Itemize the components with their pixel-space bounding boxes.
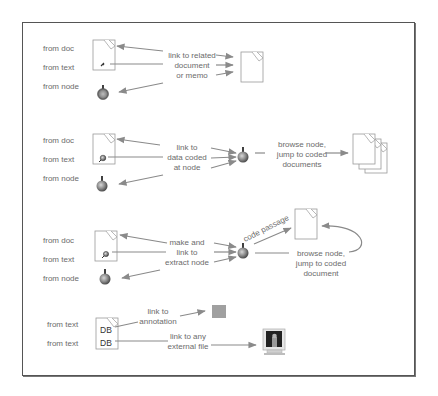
followup-label: jump to coded — [295, 259, 346, 268]
file-label: external file — [168, 342, 209, 351]
arrow — [211, 161, 236, 168]
source-label: from doc — [43, 136, 74, 145]
source-label: from text — [47, 339, 79, 348]
section-2: from doc from text from node link to dat… — [43, 134, 387, 192]
computer-monitor-icon — [263, 329, 285, 355]
annotation-label: annotation — [139, 317, 176, 326]
source-document-icon — [93, 40, 115, 70]
target-node-icon — [238, 147, 249, 163]
file-label: link to any — [170, 332, 206, 341]
source-label: from node — [43, 274, 80, 283]
arrow — [211, 148, 236, 153]
annotation-icon — [212, 305, 226, 318]
action-label: extract node — [165, 258, 210, 267]
source-label: from node — [43, 82, 80, 91]
source-label: from doc — [43, 44, 74, 53]
action-label: document — [174, 61, 210, 70]
action-label: link to related — [168, 51, 216, 60]
section-3: from doc from text from node make and li… — [43, 209, 362, 285]
source-label: from text — [47, 320, 79, 329]
target-document-icon — [241, 52, 263, 82]
source-label: from text — [43, 255, 75, 264]
action-label: at node — [174, 163, 201, 172]
arrow — [216, 55, 233, 57]
arrow — [117, 46, 163, 51]
source-label: from doc — [43, 236, 74, 245]
coded-documents-icon — [353, 134, 387, 173]
arrow — [122, 270, 160, 278]
db-marker: DB — [100, 325, 112, 335]
section-1: from doc from text from node link to rel… — [43, 40, 263, 100]
source-node-icon — [97, 176, 108, 192]
arrow — [211, 157, 236, 158]
followup-label: document — [303, 269, 339, 278]
arrow — [119, 83, 163, 92]
action-label: or memo — [176, 71, 208, 80]
arrow — [214, 257, 236, 262]
linking-diagram: from doc from text from node link to rel… — [0, 0, 438, 396]
arrow — [214, 243, 236, 247]
arrow — [119, 175, 163, 184]
connector — [115, 322, 138, 327]
arrow — [120, 235, 167, 243]
source-label: from node — [43, 174, 80, 183]
annotation-label: link to — [148, 307, 169, 316]
target-node-icon — [238, 243, 249, 259]
action-label: link to — [177, 143, 198, 152]
action-label: data coded — [167, 153, 207, 162]
arrow — [180, 311, 205, 316]
coded-document-icon — [295, 209, 317, 239]
action-label: link to — [177, 248, 198, 257]
source-label: from text — [43, 155, 75, 164]
source-node-icon — [98, 85, 109, 100]
action-label: make and — [169, 238, 204, 247]
followup-label: documents — [282, 160, 321, 169]
arrow — [216, 72, 233, 75]
arrow — [117, 139, 160, 145]
followup-label: browse node, — [297, 249, 345, 258]
source-label: from text — [43, 63, 75, 72]
source-node-icon — [100, 269, 111, 285]
section-4: from text from text DB DB link to annota… — [47, 305, 285, 355]
followup-label: browse node, — [278, 140, 326, 149]
followup-label: jump to coded — [276, 150, 327, 159]
db-marker: DB — [100, 338, 112, 348]
